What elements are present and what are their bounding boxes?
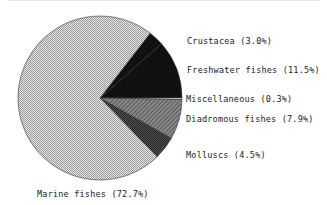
pie-slices	[18, 16, 182, 180]
label-crustacea: Crustacea (3.0%)	[187, 36, 272, 46]
label-miscellaneous: Miscellaneous (0.3%)	[186, 94, 292, 104]
label-molluscs: Molluscs (4.5%)	[186, 150, 266, 160]
label-diadromous-fishes: Diadromous fishes (7.9%)	[186, 114, 314, 124]
label-freshwater-fishes: Freshwater fishes (11.5%)	[187, 65, 320, 75]
label-marine-fishes: Marine fishes (72.7%)	[37, 189, 149, 199]
